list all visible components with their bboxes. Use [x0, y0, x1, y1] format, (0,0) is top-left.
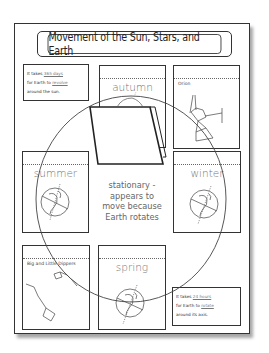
orion-constellation-icon	[190, 95, 222, 141]
orbit-and-diagrams	[0, 0, 269, 353]
earth-summer-icon	[41, 184, 69, 220]
earth-winter-icon	[190, 186, 218, 224]
earth-autumn-icon	[117, 92, 143, 107]
dippers-constellation-icon	[26, 272, 77, 321]
sun-flap	[90, 107, 163, 164]
earth-spring-icon	[116, 285, 144, 324]
